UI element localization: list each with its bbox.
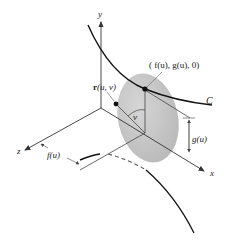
x-axis-label: x (209, 168, 214, 178)
g-dim-label: g(u) (192, 134, 207, 144)
f-dim-line-left (41, 144, 48, 148)
lower-curve-back (80, 154, 100, 160)
lower-curve-front (146, 170, 194, 233)
f-dim-label: f(u) (47, 150, 60, 160)
y-axis-label: y (97, 9, 102, 19)
angle-label: v (133, 112, 137, 122)
surface-point (114, 102, 119, 107)
curve-point-label: ( f(u), g(u), 0) (149, 60, 199, 70)
surface-point-label-args: (u, v) (97, 82, 116, 92)
z-axis (25, 108, 101, 150)
curve-point (142, 86, 147, 91)
z-axis-label: z (16, 146, 21, 156)
surface-point-leader (107, 92, 114, 101)
surface-of-revolution-diagram: y x z C ( f(u), g(u), 0) r(u, v) v g(u) … (0, 0, 225, 245)
surface-point-label: r(u, v) (93, 82, 116, 92)
curve-c-label: C (206, 95, 213, 106)
f-dim-line-right (67, 158, 79, 164)
